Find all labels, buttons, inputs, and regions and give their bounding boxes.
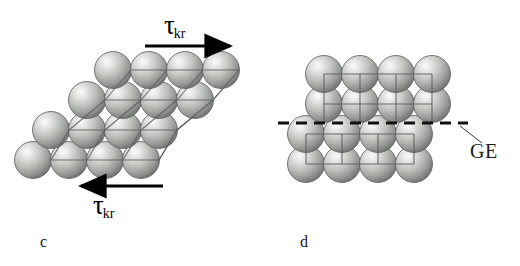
tau-kr-label-top: τkr: [164, 12, 186, 41]
panel-d-caption: d: [300, 234, 308, 250]
panel-c-caption: c: [40, 234, 47, 250]
figure-root: τkr τkr c: [0, 0, 520, 266]
tau-subscript-top: kr: [174, 26, 186, 41]
tau-subscript-bottom: kr: [103, 206, 115, 221]
panel-c: τkr τkr c: [0, 0, 260, 266]
tau-kr-label-bottom: τkr: [93, 192, 115, 221]
panel-d: GE d: [260, 0, 520, 266]
grain-boundary-label: GE: [470, 141, 498, 161]
panel-c-graphics: [0, 0, 260, 266]
panel-d-graphics: [260, 0, 520, 266]
